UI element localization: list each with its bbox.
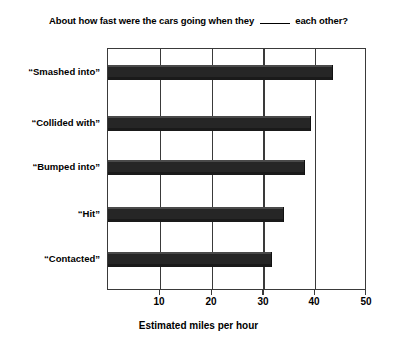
bar-smashed-into (108, 65, 333, 80)
tick-label-20: 20 (191, 296, 231, 307)
tick-mark-30 (262, 290, 263, 295)
tick-label-50: 50 (346, 296, 386, 307)
tick-label-30: 30 (243, 296, 283, 307)
plot-area (107, 48, 366, 290)
bar-bumped-into (108, 160, 305, 175)
category-label-hit: “Hit” (0, 208, 100, 219)
bar-collided-with (108, 116, 311, 131)
tick-mark-50 (365, 290, 366, 295)
page-title: About how fast were the cars going when … (0, 15, 397, 26)
category-label-contacted: “Contacted” (0, 253, 100, 264)
category-label-collided-with: “Collided with” (0, 117, 100, 128)
category-label-smashed-into: “Smashed into” (0, 66, 100, 77)
tick-mark-40 (314, 290, 315, 295)
category-label-bumped-into: “Bumped into” (0, 161, 100, 172)
tick-label-40: 40 (294, 296, 334, 307)
title-blank-underscore (260, 15, 290, 24)
tick-mark-10 (159, 290, 160, 295)
bar-hit (108, 207, 284, 222)
tick-mark-20 (211, 290, 212, 295)
tick-label-10: 10 (139, 296, 179, 307)
gridline-40 (315, 49, 316, 289)
bar-contacted (108, 252, 272, 267)
x-axis-title: Estimated miles per hour (0, 320, 397, 331)
title-suffix: each other? (295, 15, 348, 26)
title-prefix: About how fast were the cars going when … (49, 15, 254, 26)
